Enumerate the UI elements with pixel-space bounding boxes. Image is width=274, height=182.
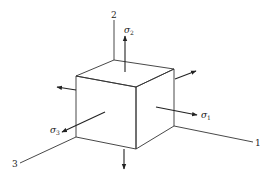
axis-2-label: 2 bbox=[111, 10, 117, 20]
sigma-2-label: σ 2 bbox=[124, 25, 134, 36]
cube bbox=[76, 60, 174, 149]
sigma-3-label: σ 3 bbox=[50, 125, 60, 136]
sigma-1-label: σ 1 bbox=[201, 110, 211, 121]
svg-text:2: 2 bbox=[130, 29, 134, 36]
axis-3-line bbox=[20, 137, 76, 163]
axis-1-line bbox=[174, 126, 253, 142]
svg-text:1: 1 bbox=[207, 114, 211, 121]
svg-text:3: 3 bbox=[56, 129, 60, 136]
sigma-1-arrow bbox=[156, 107, 197, 115]
stress-cube-diagram: 2 1 3 σ 2 σ 1 σ 3 bbox=[0, 0, 274, 182]
axis-3-label: 3 bbox=[12, 159, 18, 169]
axis-1-label: 1 bbox=[255, 138, 261, 148]
sigma-3-arrow bbox=[62, 112, 105, 132]
left-arrow bbox=[57, 87, 76, 90]
back-right-arrow bbox=[175, 71, 196, 79]
